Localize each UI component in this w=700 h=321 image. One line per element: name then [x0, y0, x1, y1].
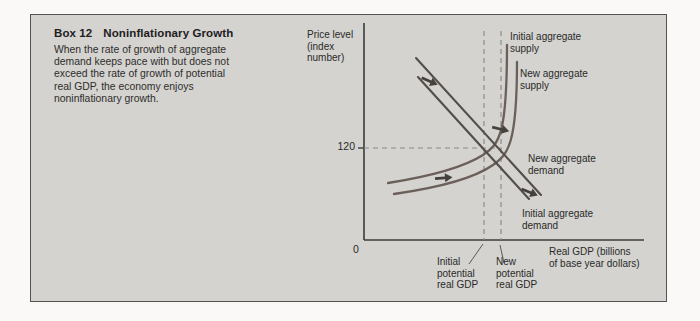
figure-box: Box 12Noninflationary Growth When the ra… [30, 14, 667, 302]
new-aggregate-demand-label: New aggregate demand [528, 153, 596, 176]
initial-potential-real-gdp-label: Initial potential real GDP [437, 256, 478, 291]
new-aggregate-supply-label: New aggregate supply [520, 68, 588, 91]
new-potential-real-gdp-label: New potential real GDP [496, 256, 537, 291]
supply-shift-arrow-lower-icon [435, 173, 453, 183]
initial-aggregate-demand-label: Initial aggregate demand [522, 208, 593, 231]
x-axis-label: Real GDP (billions of base year dollars) [549, 246, 640, 269]
price-120-label: 120 [331, 141, 355, 153]
origin-label: 0 [353, 244, 359, 256]
initial-aggregate-supply-label: Initial aggregate supply [510, 31, 581, 54]
initial-aggregate-supply-curve [388, 45, 507, 183]
y-axis-label: Price level (index number) [307, 29, 353, 64]
